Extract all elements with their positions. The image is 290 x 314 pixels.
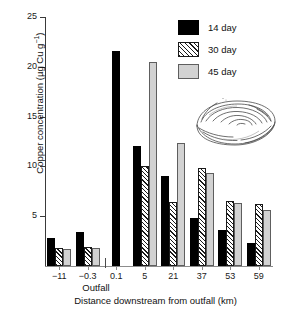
legend-item-30-day: 30 day xyxy=(178,40,284,59)
bar-30-day-21 xyxy=(169,202,177,266)
x-axis-tick-2 xyxy=(116,266,117,270)
bar-14-day-53 xyxy=(218,230,226,266)
bar-45-day-21 xyxy=(177,143,185,267)
x-axis-tick-1 xyxy=(88,266,89,270)
bar-45-day-n11 xyxy=(63,249,71,266)
bar-30-day-37 xyxy=(198,168,206,266)
bar-30-day-53 xyxy=(226,201,234,266)
bar-14-day-0.1 xyxy=(112,51,120,266)
legend: 14 day 30 day 45 day xyxy=(178,18,284,84)
bar-14-day-59 xyxy=(247,243,255,266)
x-axis-tick-label-7: 59 xyxy=(239,271,279,281)
bar-45-day-n0.3 xyxy=(92,248,100,266)
x-axis-line xyxy=(45,266,273,267)
legend-label-14-day: 14 day xyxy=(208,23,237,33)
legend-item-45-day: 45 day xyxy=(178,62,284,81)
y-axis-title-wrap: Copper concentration (µg Cu g−1) xyxy=(0,0,20,250)
bar-14-day-n0.3 xyxy=(76,232,84,266)
bar-45-day-53 xyxy=(234,203,242,266)
x-axis-tick-5 xyxy=(202,266,203,270)
legend-swatch-30-day xyxy=(178,42,199,57)
bar-30-day-5 xyxy=(141,166,149,266)
bar-45-day-37 xyxy=(206,173,214,266)
copper-concentration-bar-chart: 510152025 Copper concentration (µg Cu g−… xyxy=(0,0,290,314)
x-axis-tick-3 xyxy=(145,266,146,270)
x-axis-tick-7 xyxy=(259,266,260,270)
bar-30-day-n0.3 xyxy=(84,247,92,266)
legend-swatch-45-day xyxy=(178,64,199,79)
legend-label-45-day: 45 day xyxy=(208,67,237,77)
y-axis-title-superscript: −1 xyxy=(33,36,40,44)
bar-30-day-59 xyxy=(255,204,263,266)
bar-14-day-37 xyxy=(190,218,198,266)
legend-label-30-day: 30 day xyxy=(208,45,237,55)
y-axis-title-text: Copper concentration (µg Cu g xyxy=(34,44,45,174)
bar-45-day-5 xyxy=(149,62,157,266)
outfall-marker-tick xyxy=(105,258,106,268)
bar-14-day-n11 xyxy=(47,238,55,266)
x-axis-tick-6 xyxy=(230,266,231,270)
outfall-label: Outfall xyxy=(66,283,126,293)
x-axis-title: Distance downstream from outfall (km) xyxy=(28,295,283,306)
clam-shell-icon xyxy=(193,95,279,153)
bar-14-day-5 xyxy=(133,146,141,266)
x-axis-tick-4 xyxy=(173,266,174,270)
bar-30-day-n11 xyxy=(55,248,63,266)
y-axis-title-tail: ) xyxy=(34,32,45,35)
bar-14-day-21 xyxy=(161,176,169,266)
legend-item-14-day: 14 day xyxy=(178,18,284,37)
legend-swatch-14-day xyxy=(178,20,199,35)
y-axis-title: Copper concentration (µg Cu g−1) xyxy=(31,13,45,193)
bar-45-day-59 xyxy=(263,210,271,266)
x-axis-tick-0 xyxy=(59,266,60,270)
